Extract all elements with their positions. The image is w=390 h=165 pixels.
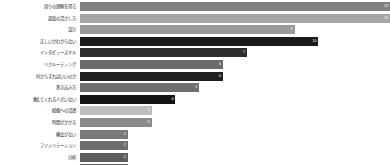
category-label: 巻き込み方: [0, 83, 80, 92]
bar-value-label: 2: [124, 130, 126, 139]
bar-row: 何からすればいいのか6: [0, 72, 390, 81]
bar-value-label: 4: [171, 95, 173, 104]
category-label: 分析: [0, 153, 80, 162]
bar-track: 6: [80, 60, 390, 69]
bar-row: 調査の活かし方13: [0, 14, 390, 23]
bar: 3: [80, 106, 152, 115]
bar: 2: [80, 153, 128, 162]
bar-track: 2: [80, 141, 390, 150]
bar-row: 時間がかかる3: [0, 118, 390, 127]
category-label: インタビュースキル: [0, 48, 80, 57]
bar-row: 巻き込み方5: [0, 83, 390, 92]
bar-row: 周りの理解を得る13: [0, 2, 390, 11]
bar-track: 13: [80, 2, 390, 11]
category-label: 何からすればいいのか: [0, 72, 80, 81]
bar-track: 9: [80, 25, 390, 34]
bar-row: ファシリテーション2: [0, 141, 390, 150]
bar-row: 分析2: [0, 153, 390, 162]
bar-track: 10: [80, 37, 390, 46]
bar-value-label: 7: [243, 48, 245, 57]
bar: 2: [80, 130, 128, 139]
bar-track: 6: [80, 72, 390, 81]
bar: 4: [80, 95, 175, 104]
bar-value-label: 5: [195, 83, 197, 92]
bar-value-label: 9: [291, 25, 293, 34]
category-label: 定量データ: [0, 164, 80, 165]
category-label: 正しいかわからない: [0, 37, 80, 46]
bar-value-label: 2: [124, 164, 126, 165]
bar-track: 2: [80, 130, 390, 139]
bar: 9: [80, 25, 295, 34]
bar-value-label: 3: [148, 118, 150, 127]
bar: 10: [80, 37, 318, 46]
bar-value-label: 2: [124, 141, 126, 150]
category-label: 組織への浸透: [0, 106, 80, 115]
category-label: 設計: [0, 25, 80, 34]
bar-value-label: 13: [384, 2, 388, 11]
bar-row: 教えてくれる人がいない4: [0, 95, 390, 104]
bar-value-label: 13: [384, 14, 388, 23]
bar: 5: [80, 83, 199, 92]
bar: 3: [80, 118, 152, 127]
bar-row: 正しいかわからない10: [0, 37, 390, 46]
bar-row: リクルーティング6: [0, 60, 390, 69]
bar-track: 3: [80, 118, 390, 127]
bar-value-label: 6: [219, 60, 221, 69]
category-label: 時間がかかる: [0, 118, 80, 127]
bar: 13: [80, 2, 390, 11]
bar-track: 3: [80, 106, 390, 115]
bar-row: 定量データ2: [0, 164, 390, 165]
bar-row: 機会がない2: [0, 130, 390, 139]
bar: 13: [80, 14, 390, 23]
bar: 2: [80, 164, 128, 165]
bar-track: 4: [80, 95, 390, 104]
bar-track: 7: [80, 48, 390, 57]
bar-track: 13: [80, 14, 390, 23]
category-label: 機会がない: [0, 130, 80, 139]
bar-row: インタビュースキル7: [0, 48, 390, 57]
bar-value-label: 6: [219, 72, 221, 81]
category-label: 教えてくれる人がいない: [0, 95, 80, 104]
category-label: 周りの理解を得る: [0, 2, 80, 11]
bar-value-label: 3: [148, 106, 150, 115]
horizontal-bar-chart: 周りの理解を得る13調査の活かし方13設計9正しいかわからない10インタビュース…: [0, 0, 390, 165]
category-label: 調査の活かし方: [0, 14, 80, 23]
bar: 7: [80, 48, 247, 57]
bar-row: 組織への浸透3: [0, 106, 390, 115]
bar: 2: [80, 141, 128, 150]
bar: 6: [80, 60, 223, 69]
bar: 6: [80, 72, 223, 81]
category-label: ファシリテーション: [0, 141, 80, 150]
bar-track: 2: [80, 153, 390, 162]
bar-value-label: 2: [124, 153, 126, 162]
bar-track: 2: [80, 164, 390, 165]
bar-track: 5: [80, 83, 390, 92]
bar-value-label: 10: [312, 37, 316, 46]
category-label: リクルーティング: [0, 60, 80, 69]
bar-row: 設計9: [0, 25, 390, 34]
